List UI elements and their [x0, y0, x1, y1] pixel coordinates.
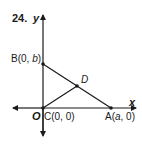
problem-number: 24.: [12, 13, 27, 24]
point-d: [75, 84, 79, 88]
point-a-label-text: A(: [105, 111, 115, 122]
point-b: [41, 62, 45, 66]
point-c-label: C(0, 0): [44, 112, 75, 122]
point-a-close: , 0): [121, 111, 135, 122]
point-b-label-text: B(0,: [11, 53, 32, 64]
point-b-close: ): [38, 53, 41, 64]
x-axis-label: x: [129, 97, 135, 108]
point-a: [109, 106, 113, 110]
point-c: [41, 106, 45, 110]
point-d-label: D: [81, 75, 88, 85]
segment-cd: [43, 86, 77, 108]
point-a-label: A(a, 0): [105, 112, 135, 122]
origin-label: O: [32, 111, 41, 122]
y-axis-label: y: [33, 13, 39, 24]
point-b-label: B(0, b): [11, 54, 41, 64]
diagram: 24. y x B(0, b) D O C(0, 0) A(a, 0): [0, 0, 142, 148]
